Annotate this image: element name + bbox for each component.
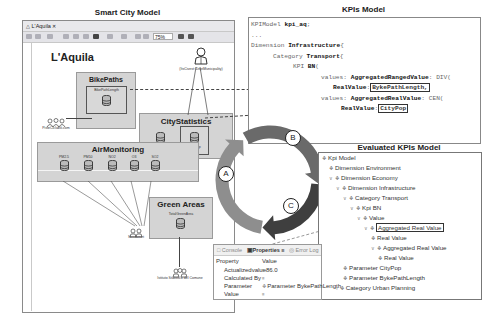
- sensor-provider-icon: [128, 224, 144, 242]
- smart-city-title: Smart City Model: [22, 8, 233, 17]
- tree-node[interactable]: ∨❖Dimension Infrastructure: [336, 184, 415, 192]
- console-icon: □: [217, 247, 220, 253]
- redo-button[interactable]: [143, 34, 149, 39]
- tree-node[interactable]: ❖Kpi Model: [322, 154, 356, 162]
- green-areas-title: Green Areas: [150, 200, 212, 209]
- chevron-down-icon[interactable]: ∨: [329, 175, 333, 181]
- tree-node-label: Category Urban Planning: [346, 284, 415, 291]
- property-name: Actualizedvalue: [224, 267, 266, 273]
- code-line: ...: [251, 32, 262, 39]
- code-keyword: KPIModel: [251, 21, 284, 28]
- toolbar-button[interactable]: [26, 34, 32, 39]
- evaluated-kpis-tree[interactable]: ❖Kpi Model❖Dimension Environment∨❖Dimens…: [318, 152, 482, 300]
- code-identifier: RealValue: [341, 105, 374, 112]
- tree-node[interactable]: ❖Real Value: [378, 254, 414, 262]
- bike-paths-group[interactable]: BikePaths BikePathLength: [76, 72, 136, 129]
- chevron-down-icon[interactable]: ∨: [364, 225, 368, 231]
- toolbar-button[interactable]: [121, 34, 127, 39]
- code-line: RealValue:CityPop: [341, 105, 408, 112]
- toolbar-button[interactable]: [63, 34, 69, 39]
- code-line: values: AggregatedRangedValue: DIV(: [321, 74, 451, 81]
- chevron-down-icon[interactable]: ∨: [343, 195, 347, 201]
- tab-label: Properties: [253, 247, 280, 253]
- tab-label: Error Log: [296, 247, 319, 253]
- highlighted-reference[interactable]: BykePathLength,: [370, 83, 430, 92]
- toolbar-button[interactable]: [83, 34, 89, 39]
- tree-node[interactable]: ∨❖Dimension Economy: [329, 174, 398, 182]
- code-keyword: values:: [321, 95, 351, 102]
- sensor-label: NO2: [104, 155, 120, 159]
- toolbar-button[interactable]: [35, 34, 41, 39]
- chevron-down-icon[interactable]: ∨: [350, 205, 354, 211]
- tree-node[interactable]: ∨❖Category Transport: [343, 194, 408, 202]
- tree-node[interactable]: ❖Parameter BykePathLength: [343, 274, 425, 282]
- smart-city-editor: △ L'Aquila ✕ 75% L'Aquila (ItsCivest: De…: [22, 20, 235, 313]
- property-value-text: 86.0: [266, 267, 278, 273]
- tree-node[interactable]: ❖Dimension Environment: [329, 164, 401, 172]
- highlighted-reference[interactable]: CityPop: [378, 104, 408, 113]
- property-value[interactable]: ≡: [262, 291, 265, 297]
- properties-panel: □ Console ▣Properties ≡ ◎ Error Log ▤ Pr…: [213, 244, 322, 300]
- chevron-down-icon[interactable]: ∨: [371, 245, 375, 251]
- close-tab-icon[interactable]: ✕: [52, 23, 56, 29]
- tab-properties[interactable]: ▣Properties ≡: [247, 247, 285, 253]
- chevron-down-icon[interactable]: ∨: [357, 215, 361, 221]
- connector-line: [179, 237, 180, 267]
- tab-error-log[interactable]: ◎ Error Log: [289, 247, 318, 253]
- toolbar-button[interactable]: [47, 34, 53, 39]
- tree-node-label: Aggregated Real Value: [376, 223, 444, 232]
- sensor-database-icon[interactable]: [60, 160, 69, 171]
- code-identifier: AggregatedRealValue: [351, 95, 422, 102]
- model-element-icon: ❖: [377, 245, 381, 251]
- model-icon: △: [26, 23, 30, 29]
- tree-node-label: Dimension Environment: [335, 164, 401, 171]
- sensor-database-icon[interactable]: [151, 160, 160, 171]
- property-value[interactable]: ≡: [262, 275, 265, 281]
- undo-button[interactable]: [135, 34, 141, 39]
- code-line: RealValue:BykePathLength,: [333, 84, 430, 91]
- toolbar-button[interactable]: [93, 34, 99, 39]
- green-areas-group[interactable]: Green Areas TotalGreenArea: [149, 197, 213, 239]
- database-icon: [102, 95, 111, 106]
- sensor-label: PM10: [80, 155, 96, 159]
- tree-node[interactable]: ❖Parameter CityPop: [343, 264, 401, 272]
- tree-node-label: Dimension Infrastructure: [348, 184, 415, 191]
- chevron-down-icon[interactable]: ∨: [336, 185, 340, 191]
- toolbar-button[interactable]: [188, 34, 194, 39]
- tab-label: Console: [222, 247, 242, 253]
- code-keyword: ...: [251, 32, 262, 39]
- sensor-database-icon[interactable]: [108, 160, 117, 171]
- tree-node[interactable]: ❖Real Value: [371, 234, 407, 242]
- sensor-database-icon[interactable]: [130, 160, 139, 171]
- tab-console[interactable]: □ Console: [217, 247, 242, 253]
- tree-node[interactable]: ∨❖Value: [357, 214, 384, 222]
- tree-node[interactable]: ∨❖Aggregated Real Value: [364, 224, 444, 232]
- code-line: Dimension Infrastructure{: [251, 42, 344, 49]
- model-element-icon: ❖: [370, 225, 374, 231]
- tree-node-label: Dimension Economy: [341, 174, 398, 181]
- property-value[interactable]: ≡ 86.0: [262, 267, 278, 273]
- tree-node[interactable]: ∨❖Kpi BN: [350, 204, 381, 212]
- connector-line: [66, 118, 92, 119]
- property-value[interactable]: ❖ Parameter BykePathLength: [262, 283, 341, 289]
- toolbar-button[interactable]: [73, 34, 79, 39]
- editor-toolbar: 75%: [23, 32, 234, 43]
- property-column-header: Property: [216, 258, 239, 264]
- model-element-icon: ❖: [342, 185, 346, 191]
- editor-tab-label: L'Aquila: [32, 23, 51, 29]
- sensor-database-icon[interactable]: [84, 160, 93, 171]
- bike-path-length-source[interactable]: BikePathLength: [86, 86, 127, 114]
- code-keyword: Dimension: [251, 42, 288, 49]
- tree-node[interactable]: ∨❖Aggregated Real Value: [371, 244, 447, 252]
- code-keyword: KPI: [293, 63, 308, 70]
- code-punctuation: : DIV(: [429, 74, 451, 81]
- toolbar-button[interactable]: [107, 34, 113, 39]
- city-name-label: L'Aquila: [51, 51, 94, 63]
- toolbar-button[interactable]: [178, 34, 184, 39]
- editor-tab[interactable]: △ L'Aquila ✕: [26, 23, 56, 29]
- code-punctuation: ;: [307, 21, 311, 28]
- zoom-level-field[interactable]: 75%: [153, 33, 173, 40]
- tree-node-label: Aggregated Real Value: [383, 244, 447, 251]
- model-element-icon: ❖: [329, 165, 333, 171]
- tree-node[interactable]: ›❖Category Urban Planning: [336, 284, 415, 292]
